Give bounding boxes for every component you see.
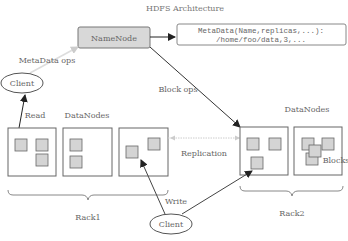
blocks-label: Blocks: [323, 156, 348, 165]
rack1-datanodes-label: DataNodes: [65, 111, 110, 120]
rack1-datanode-3: [119, 128, 168, 176]
block: [309, 145, 321, 157]
diagram-title: HDFS Architecture: [146, 4, 224, 13]
rack2-datanode-1: [240, 127, 288, 175]
metadata-line2: /home/foo/data,3,...: [216, 36, 306, 44]
rack2-datanode-2: Blocks: [294, 127, 348, 175]
block: [70, 156, 82, 168]
block: [322, 138, 334, 150]
replication-arrowhead-right: [235, 136, 240, 141]
block: [15, 139, 27, 151]
rack2-brace: [240, 186, 343, 196]
rack1-brace: [8, 190, 168, 200]
hdfs-architecture-diagram: HDFS Architecture NameNode MetaData(Name…: [0, 0, 348, 241]
block: [251, 157, 263, 169]
metadata-box: MetaData(Name,replicas,...): /home/foo/d…: [177, 24, 346, 45]
replication-label: Replication: [181, 149, 227, 158]
block: [70, 139, 82, 151]
rack1-datanode-2: [63, 128, 112, 176]
metadata-line1: MetaData(Name,replicas,...):: [198, 27, 324, 35]
block: [126, 146, 138, 158]
block: [269, 138, 281, 150]
block: [36, 139, 48, 151]
block: [36, 154, 48, 166]
replication-arrowhead-left: [170, 136, 175, 141]
rack1-label: Rack1: [75, 213, 100, 222]
client-bottom-label: Client: [159, 220, 184, 229]
client-top-label: Client: [10, 79, 35, 88]
block: [247, 138, 259, 150]
client-top: Client: [1, 73, 43, 93]
rack1-datanode-1: [8, 128, 56, 176]
namenode: NameNode: [78, 27, 150, 48]
rack2-label: Rack2: [279, 209, 304, 218]
block: [148, 138, 160, 150]
write-arrow-rack2: [182, 171, 252, 214]
write-label: Write: [165, 197, 187, 206]
metadata-ops-label: MetaData ops: [19, 56, 76, 65]
block-ops-label: Block ops: [158, 85, 197, 94]
client-bottom: Client: [150, 214, 192, 234]
namenode-label: NameNode: [91, 34, 137, 43]
rack2-datanodes-label: DataNodes: [285, 105, 330, 114]
read-label: Read: [25, 111, 46, 120]
